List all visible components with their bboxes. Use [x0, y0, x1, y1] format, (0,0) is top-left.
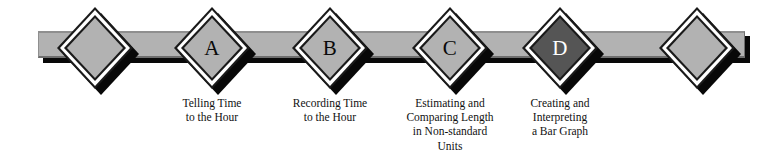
timeline-node-d[interactable]: D	[518, 6, 602, 90]
diamond-icon	[655, 6, 739, 90]
timeline-node-start[interactable]	[53, 6, 137, 90]
diamond-icon	[170, 6, 254, 90]
timeline-caption-d: Creating andInterpretinga Bar Graph	[485, 96, 635, 139]
caption-line: a Bar Graph	[485, 124, 635, 138]
timeline-diagram: ABCD Telling Timeto the HourRecording Ti…	[0, 0, 770, 152]
caption-line: Units	[375, 139, 525, 152]
timeline-node-a[interactable]: A	[170, 6, 254, 90]
timeline-node-end[interactable]	[655, 6, 739, 90]
diamond-icon	[288, 6, 372, 90]
timeline-node-b[interactable]: B	[288, 6, 372, 90]
diamond-icon	[53, 6, 137, 90]
caption-line: Creating and	[485, 96, 635, 110]
caption-line: Interpreting	[485, 110, 635, 124]
timeline-node-c[interactable]: C	[408, 6, 492, 90]
diamond-icon	[518, 6, 602, 90]
diamond-icon	[408, 6, 492, 90]
timeline-bar	[38, 31, 745, 58]
